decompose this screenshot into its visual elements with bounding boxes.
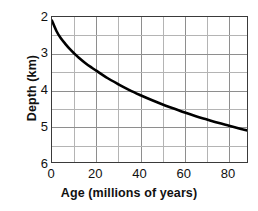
- depth-age-curve: [52, 17, 248, 163]
- curve-path: [52, 21, 248, 131]
- x-tick-label: 60: [164, 166, 204, 182]
- x-axis-title: Age (millions of years): [0, 186, 258, 200]
- y-axis-tick-labels: 23456: [30, 16, 48, 163]
- x-axis-tick-labels: 020406080: [51, 166, 248, 184]
- chart-figure: Depth (km) 23456 020406080 Age (millions…: [0, 0, 258, 211]
- y-tick-label: 4: [30, 83, 48, 96]
- y-tick-label: 2: [30, 10, 48, 23]
- y-tick-label: 5: [30, 120, 48, 133]
- plot-area: [51, 16, 248, 163]
- x-tick-label: 80: [208, 166, 248, 182]
- y-tick-label: 3: [30, 46, 48, 59]
- x-tick-label: 0: [31, 166, 71, 182]
- x-tick-label: 40: [120, 166, 160, 182]
- x-tick-label: 20: [75, 166, 115, 182]
